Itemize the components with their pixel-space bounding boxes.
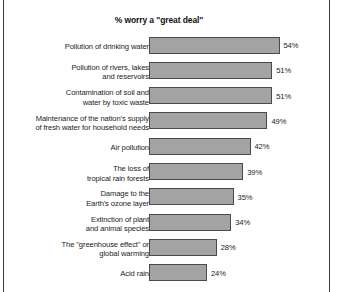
bar-container: 51% bbox=[149, 62, 272, 79]
category-label: The loss of tropical rain forests bbox=[3, 164, 149, 183]
bar-value-label: 28% bbox=[221, 243, 236, 252]
chart-row: Pollution of rivers, lakes and reservoir… bbox=[4, 59, 330, 84]
category-label: Air pollution bbox=[3, 143, 149, 152]
bar bbox=[149, 188, 234, 205]
bar bbox=[149, 37, 280, 54]
bar bbox=[149, 163, 243, 180]
bar-container: 49% bbox=[149, 112, 267, 129]
bar-value-label: 24% bbox=[211, 268, 226, 277]
chart-row: The loss of tropical rain forests39% bbox=[4, 161, 330, 186]
category-label: Pollution of rivers, lakes and reservoir… bbox=[3, 63, 149, 82]
bar-value-label: 35% bbox=[238, 192, 253, 201]
bar-value-label: 39% bbox=[247, 167, 262, 176]
bar bbox=[149, 138, 251, 155]
chart-title: % worry a "great deal" bbox=[4, 15, 314, 25]
chart-row: Maintenance of the nation's supply of fr… bbox=[4, 110, 330, 135]
bar-container: 39% bbox=[149, 163, 243, 180]
bar-chart-plot-area: Pollution of drinking water54%Pollution … bbox=[4, 34, 330, 290]
bar-container: 24% bbox=[149, 264, 207, 281]
bar-value-label: 54% bbox=[284, 41, 299, 50]
chart-row: Acid rain24% bbox=[4, 262, 330, 287]
bar-container: 51% bbox=[149, 87, 272, 104]
chart-row: Damage to the Earth's ozone layer35% bbox=[4, 186, 330, 211]
bar bbox=[149, 264, 207, 281]
chart-row: Pollution of drinking water54% bbox=[4, 34, 330, 59]
category-label: Contamination of soil and water by toxic… bbox=[3, 88, 149, 107]
chart-frame: % worry a "great deal" Pollution of drin… bbox=[3, 0, 330, 292]
chart-row: Contamination of soil and water by toxic… bbox=[4, 85, 330, 110]
bar-container: 28% bbox=[149, 239, 217, 256]
category-label: Pollution of drinking water bbox=[3, 42, 149, 51]
bar bbox=[149, 239, 217, 256]
bar-value-label: 34% bbox=[235, 218, 250, 227]
bar-container: 54% bbox=[149, 37, 280, 54]
chart-row: Air pollution42% bbox=[4, 135, 330, 160]
bar bbox=[149, 112, 267, 129]
bar bbox=[149, 214, 231, 231]
bar-value-label: 51% bbox=[276, 66, 291, 75]
bar-container: 34% bbox=[149, 214, 231, 231]
bar-container: 42% bbox=[149, 138, 251, 155]
bar-value-label: 42% bbox=[255, 142, 270, 151]
bar-container: 35% bbox=[149, 188, 234, 205]
chart-row: Extinction of plant and animal species34… bbox=[4, 211, 330, 236]
chart-row: The "greenhouse effect" or global warmin… bbox=[4, 236, 330, 261]
bar-value-label: 51% bbox=[276, 91, 291, 100]
bar-value-label: 49% bbox=[271, 116, 286, 125]
bar bbox=[149, 62, 272, 79]
category-label: Extinction of plant and animal species bbox=[3, 214, 149, 233]
bar bbox=[149, 87, 272, 104]
category-label: Maintenance of the nation's supply of fr… bbox=[3, 113, 149, 132]
category-label: Acid rain bbox=[3, 270, 149, 279]
category-label: Damage to the Earth's ozone layer bbox=[3, 189, 149, 208]
category-label: The "greenhouse effect" or global warmin… bbox=[3, 240, 149, 259]
